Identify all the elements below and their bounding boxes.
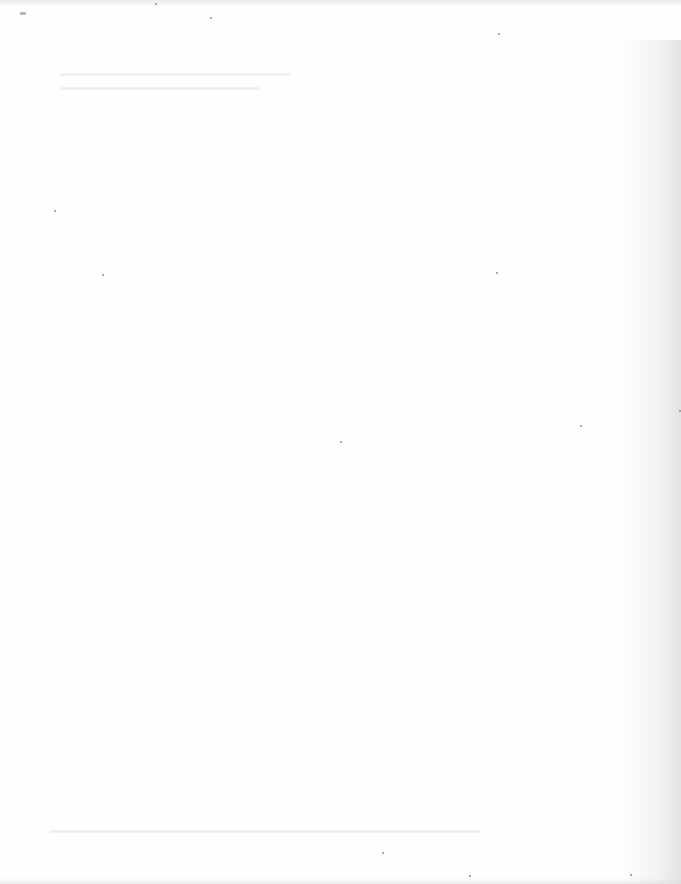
page-bottom-edge [0,878,681,884]
scan-speck [155,3,157,5]
scan-speck [580,425,582,427]
scan-speck [498,33,500,35]
scan-speck [496,272,498,274]
page-right-edge-shadow [621,40,681,884]
scan-speck [382,852,384,854]
scan-speck [102,274,104,276]
page-top-edge [0,0,681,6]
scan-speck [630,874,632,876]
scan-speck [340,441,342,443]
scan-speck [210,17,212,19]
bleed-through-text [50,830,480,833]
blank-document-page [0,0,681,884]
bleed-through-text [60,87,260,90]
scan-speck [469,875,471,877]
bleed-through-text [60,73,290,76]
scan-speck [20,12,26,15]
scan-speck [54,210,56,212]
